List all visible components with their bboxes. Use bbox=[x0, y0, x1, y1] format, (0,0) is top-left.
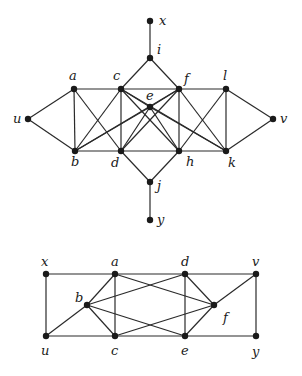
edge-u-a bbox=[28, 89, 74, 119]
vertex-label-y: y bbox=[251, 344, 260, 359]
edge-e-h bbox=[150, 107, 179, 151]
vertex-v bbox=[270, 116, 276, 122]
diagram-canvas: xiacfleuvbdhkjy xadvbfucey bbox=[0, 0, 302, 376]
vertex-v bbox=[253, 271, 259, 277]
vertex-label-b: b bbox=[71, 154, 79, 169]
graph-figure: xiacfleuvbdhkjy xadvbfucey bbox=[0, 0, 302, 376]
edge-a-b bbox=[74, 89, 75, 151]
vertex-label-e: e bbox=[181, 343, 189, 358]
vertex-label-k: k bbox=[228, 155, 236, 170]
vertex-label-x: x bbox=[159, 13, 167, 28]
vertex-label-v: v bbox=[280, 111, 288, 126]
vertex-label-d: d bbox=[111, 155, 119, 170]
top-graph-edges bbox=[28, 21, 273, 220]
vertex-u bbox=[43, 333, 49, 339]
vertex-label-v: v bbox=[252, 254, 260, 269]
edge-e-b bbox=[75, 107, 150, 151]
vertex-l bbox=[223, 86, 229, 92]
vertex-label-x: x bbox=[41, 254, 49, 269]
vertex-i bbox=[147, 55, 153, 61]
vertex-label-a: a bbox=[111, 254, 119, 269]
vertex-y bbox=[253, 333, 259, 339]
vertex-label-e: e bbox=[146, 88, 154, 103]
edge-i-c bbox=[121, 58, 150, 89]
bottom-graph-labels: xadvbfucey bbox=[41, 254, 260, 359]
edge-f-v bbox=[214, 274, 256, 305]
vertex-c bbox=[112, 333, 118, 339]
vertex-label-d: d bbox=[181, 254, 189, 269]
edge-i-f bbox=[150, 58, 179, 89]
top-graph: xiacfleuvbdhkjy bbox=[13, 13, 288, 227]
vertex-label-a: a bbox=[69, 68, 77, 83]
vertex-d bbox=[118, 148, 124, 154]
vertex-label-c: c bbox=[111, 343, 119, 358]
vertex-x bbox=[43, 271, 49, 277]
vertex-b bbox=[84, 302, 90, 308]
bottom-graph-nodes bbox=[43, 271, 259, 339]
vertex-label-j: j bbox=[154, 178, 161, 193]
vertex-j bbox=[147, 179, 153, 185]
edge-d-j bbox=[121, 151, 150, 182]
vertex-k bbox=[223, 148, 229, 154]
vertex-x bbox=[147, 18, 153, 24]
bottom-graph-edges bbox=[46, 274, 256, 336]
bottom-graph: xadvbfucey bbox=[41, 254, 260, 359]
vertex-label-f: f bbox=[183, 71, 191, 86]
edge-h-j bbox=[150, 151, 179, 182]
vertex-label-c: c bbox=[113, 68, 121, 83]
vertex-label-h: h bbox=[186, 154, 194, 169]
vertex-u bbox=[25, 116, 31, 122]
edge-u-b bbox=[28, 119, 75, 151]
vertex-y bbox=[147, 217, 153, 223]
vertex-f bbox=[176, 86, 182, 92]
vertex-f bbox=[211, 302, 217, 308]
vertex-label-f: f bbox=[222, 310, 230, 325]
vertex-label-b: b bbox=[75, 290, 83, 305]
vertex-c bbox=[118, 86, 124, 92]
edge-l-v bbox=[226, 89, 273, 119]
vertex-a bbox=[71, 86, 77, 92]
vertex-label-i: i bbox=[157, 42, 161, 57]
vertex-label-u: u bbox=[41, 343, 49, 358]
vertex-d bbox=[182, 271, 188, 277]
vertex-label-u: u bbox=[13, 111, 21, 126]
edge-e-d bbox=[121, 107, 150, 151]
vertex-e bbox=[147, 104, 153, 110]
edge-e-k bbox=[150, 107, 226, 151]
vertex-a bbox=[112, 271, 118, 277]
vertex-h bbox=[176, 148, 182, 154]
vertex-label-y: y bbox=[156, 212, 165, 227]
vertex-label-l: l bbox=[223, 68, 227, 83]
vertex-e bbox=[182, 333, 188, 339]
edge-u-b bbox=[46, 305, 87, 336]
edge-k-v bbox=[226, 119, 273, 151]
